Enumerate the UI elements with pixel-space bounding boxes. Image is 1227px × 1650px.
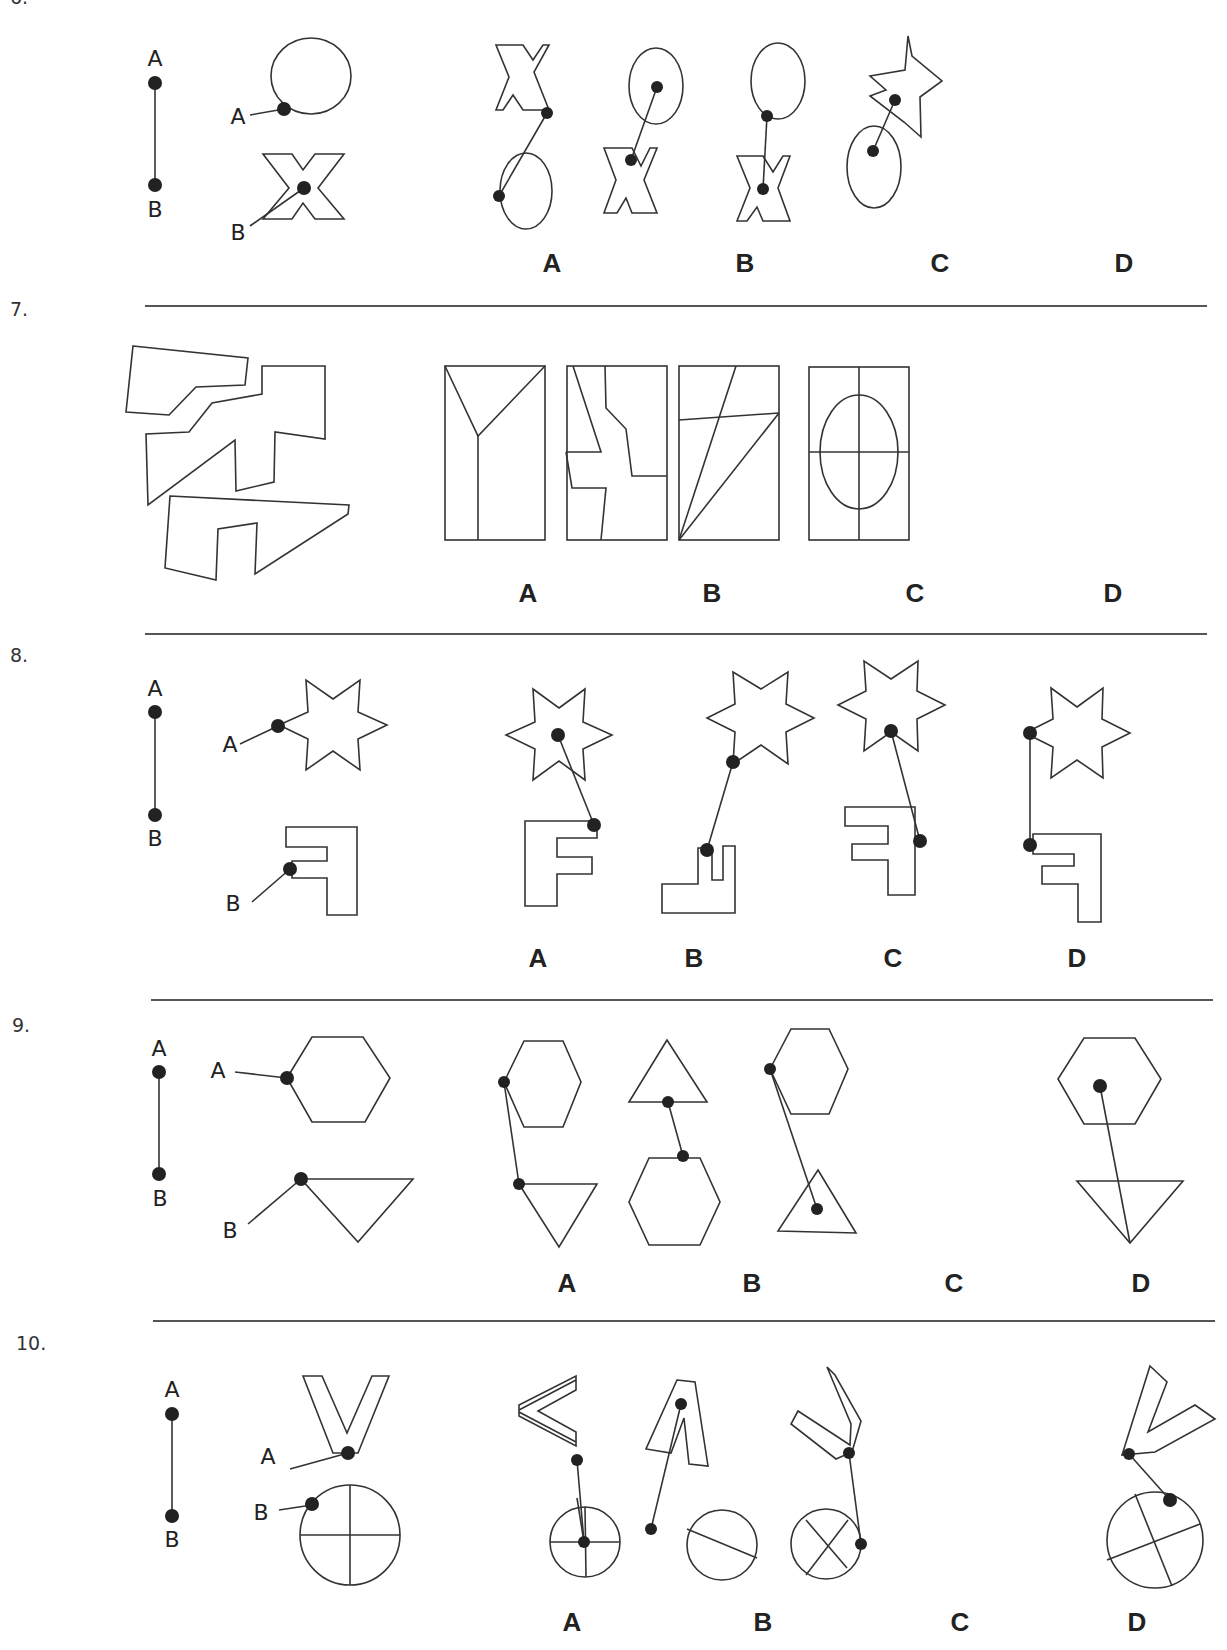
- reference-circle-cross-icon: [279, 1485, 400, 1585]
- shape-label-b: B: [253, 1500, 268, 1525]
- reference-segment: [165, 1407, 179, 1523]
- reference-v-icon: [290, 1376, 389, 1469]
- ref-label-b: B: [164, 1527, 179, 1552]
- option-c-figure-icon: [791, 1367, 867, 1579]
- option-d-figure-icon: [1107, 1366, 1215, 1588]
- shape-label-a: A: [260, 1444, 275, 1469]
- ref-label-a: A: [164, 1377, 179, 1402]
- option-a-figure-icon: [519, 1376, 620, 1577]
- option-c-label[interactable]: C: [951, 1607, 970, 1638]
- question-10-figures: [0, 0, 1227, 1650]
- option-a-label[interactable]: A: [563, 1607, 582, 1638]
- option-b-label[interactable]: B: [754, 1607, 773, 1638]
- option-d-label[interactable]: D: [1128, 1607, 1147, 1638]
- option-b-figure-icon: [645, 1380, 757, 1580]
